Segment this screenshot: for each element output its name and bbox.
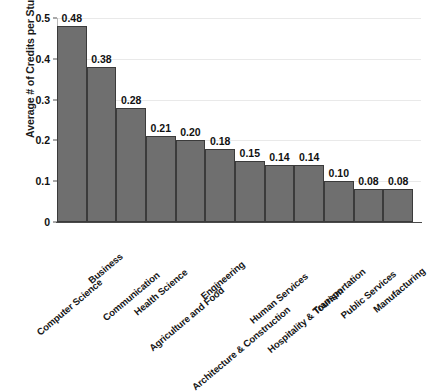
bar-slot: 0.15 (235, 18, 265, 222)
bar-slot: 0.21 (146, 18, 176, 222)
y-tick-label: 0.4 (10, 53, 50, 65)
bar[interactable] (354, 189, 384, 222)
bar[interactable] (176, 140, 206, 222)
bar-slot: 0.48 (57, 18, 87, 222)
x-axis-category-label: Business (86, 251, 125, 286)
bar[interactable] (235, 161, 265, 222)
bar-slot: 0.18 (205, 18, 235, 222)
bar-slot: 0.20 (176, 18, 206, 222)
bar-slot: 0.08 (354, 18, 384, 222)
bar-value-label: 0.10 (329, 167, 349, 179)
bar-value-label: 0.28 (121, 94, 141, 106)
plot-area: 0.480.380.280.210.200.180.150.140.140.10… (57, 18, 413, 222)
bar-value-label: 0.08 (358, 175, 378, 187)
y-tick-label: 0.2 (10, 134, 50, 146)
y-tick-mark (53, 18, 57, 19)
x-axis-labels: Computer ScienceBusinessCommunicationHea… (57, 224, 417, 324)
bar-slot: 0.08 (383, 18, 413, 222)
bar-value-label: 0.08 (388, 175, 408, 187)
bar-value-label: 0.20 (180, 126, 200, 138)
bar-value-label: 0.14 (269, 151, 289, 163)
bar[interactable] (265, 165, 295, 222)
bar[interactable] (146, 136, 176, 222)
y-tick-label: 0 (10, 216, 50, 228)
bar[interactable] (324, 181, 354, 222)
bar[interactable] (116, 108, 146, 222)
y-tick-mark (53, 181, 57, 182)
bar-value-label: 0.18 (210, 135, 230, 147)
bar[interactable] (205, 149, 235, 222)
bar-slot: 0.38 (87, 18, 117, 222)
bar[interactable] (294, 165, 324, 222)
bar-value-label: 0.14 (299, 151, 319, 163)
bar[interactable] (87, 67, 117, 222)
bar-value-label: 0.15 (240, 147, 260, 159)
caption-strip (0, 320, 442, 329)
bar-slot: 0.28 (116, 18, 146, 222)
y-tick-mark (53, 99, 57, 100)
bar-value-label: 0.38 (91, 53, 111, 65)
bar-slot: 0.14 (265, 18, 295, 222)
y-tick-mark (53, 222, 57, 223)
y-tick-mark (53, 58, 57, 59)
x-axis-line (56, 222, 422, 223)
bar-slot: 0.10 (324, 18, 354, 222)
bar-slot: 0.14 (294, 18, 324, 222)
bars-group: 0.480.380.280.210.200.180.150.140.140.10… (57, 18, 413, 222)
bar-value-label: 0.21 (151, 122, 171, 134)
y-tick-label: 0.5 (10, 12, 50, 24)
y-tick-label: 0.3 (10, 94, 50, 106)
bar[interactable] (57, 26, 87, 222)
bar[interactable] (383, 189, 413, 222)
y-tick-mark (53, 140, 57, 141)
bar-value-label: 0.48 (62, 12, 82, 24)
y-tick-label: 0.1 (10, 175, 50, 187)
